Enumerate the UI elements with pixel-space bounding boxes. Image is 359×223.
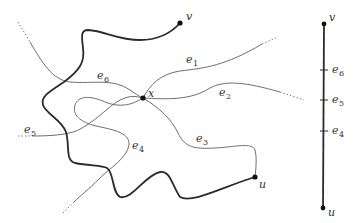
vertex-u	[252, 174, 257, 179]
svg-text:e: e	[132, 139, 139, 152]
straightened-vertex-v	[322, 22, 327, 27]
edge-e2-dotted	[280, 92, 304, 100]
edge-e1-dotted	[262, 37, 278, 44]
label-e4: e 4	[132, 139, 144, 154]
svg-text:e: e	[219, 86, 226, 99]
edge-e4-dotted	[62, 202, 74, 214]
label-e1: e 1	[186, 53, 198, 68]
straightened-label-v: v	[329, 11, 336, 24]
svg-text:6: 6	[104, 75, 109, 84]
svg-text:5: 5	[339, 99, 344, 108]
svg-text:5: 5	[31, 129, 36, 138]
tick-label-e5: e 5	[332, 93, 344, 108]
svg-text:4: 4	[139, 145, 144, 154]
edge-e6	[30, 42, 143, 98]
svg-text:e: e	[186, 53, 193, 66]
tick-label-e6: e 6	[332, 63, 344, 78]
straightened-path	[323, 24, 324, 208]
svg-text:e: e	[24, 123, 31, 136]
edge-e1	[143, 44, 262, 98]
graph-diagram: v x u e 1 e 2 e 3 e 4 e 5 e 6 v u e 6 e …	[0, 0, 359, 223]
svg-text:3: 3	[203, 138, 208, 147]
label-v: v	[186, 10, 193, 23]
label-e6: e 6	[97, 69, 109, 84]
label-x: x	[148, 87, 155, 100]
tick-label-e4: e 4	[332, 124, 344, 139]
vertex-x	[140, 95, 145, 100]
svg-text:e: e	[97, 69, 104, 82]
svg-text:e: e	[196, 132, 203, 145]
svg-text:6: 6	[339, 69, 344, 78]
straightened-label-u: u	[328, 206, 335, 219]
svg-text:e: e	[332, 93, 339, 106]
svg-text:2: 2	[226, 92, 231, 101]
edge-e2	[143, 83, 280, 99]
svg-text:e: e	[332, 63, 339, 76]
label-u: u	[259, 178, 266, 191]
svg-text:1: 1	[193, 59, 198, 68]
svg-text:e: e	[332, 124, 339, 137]
label-e5: e 5	[24, 123, 36, 138]
edge-e5	[32, 96, 143, 136]
label-e3: e 3	[196, 132, 208, 147]
straightened-vertex-u	[321, 206, 326, 211]
label-e2: e 2	[219, 86, 231, 101]
vertex-v	[177, 20, 182, 25]
svg-text:4: 4	[339, 130, 344, 139]
edge-e6-dotted	[18, 22, 30, 42]
